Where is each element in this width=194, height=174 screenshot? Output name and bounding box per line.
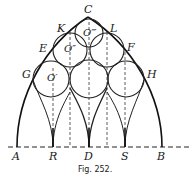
label-s: S <box>121 150 129 163</box>
pointed-arch-diagram: C K L E F G H A R D S B O‴ O″ O′ Fig. 25… <box>0 0 194 174</box>
sub-arch-s-right <box>125 80 144 147</box>
label-o-double: O″ <box>64 43 76 54</box>
label-r: R <box>48 150 57 163</box>
sub-arch-r-left <box>33 80 53 147</box>
label-o-triple: O‴ <box>83 27 97 38</box>
sub-arch-r-right <box>53 92 70 147</box>
label-d: D <box>83 150 93 163</box>
label-k: K <box>56 22 66 35</box>
figure-caption: Fig. 252. <box>78 165 112 174</box>
label-g: G <box>22 68 31 81</box>
label-l: L <box>109 22 117 35</box>
circle-bottom-right <box>108 61 144 97</box>
label-f: F <box>126 41 135 54</box>
label-c: C <box>84 3 93 16</box>
label-o-single: O′ <box>47 72 58 83</box>
label-b: B <box>156 150 165 163</box>
label-e: E <box>38 42 47 55</box>
sub-arch-s-left <box>107 92 125 147</box>
sub-arch-d-left <box>70 88 89 147</box>
label-h: H <box>146 68 157 81</box>
sub-arch-d-right <box>89 88 107 147</box>
label-a: A <box>11 150 20 163</box>
